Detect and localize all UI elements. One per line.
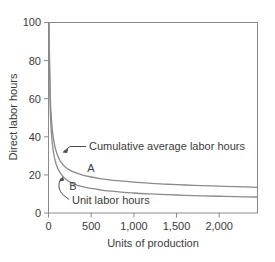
x-tick-label-500: 500 — [82, 220, 100, 232]
y-axis-title: Direct labor hours — [7, 73, 19, 160]
y-tick-label-60: 60 — [29, 93, 41, 105]
x-axis-tick-labels: 0 500 1,000 1,500 2,000 — [45, 220, 233, 232]
y-axis-tick-labels: 100 80 60 40 20 0 — [23, 16, 41, 219]
curve-a-tag-label: A — [87, 162, 95, 174]
x-tick-label-1500: 1,500 — [163, 220, 191, 232]
x-axis-title: Units of production — [107, 237, 199, 249]
learning-curve-chart-figure: 100 80 60 40 20 0 0 500 1,000 1,500 2,00… — [0, 0, 275, 262]
x-tick-label-2000: 2,000 — [205, 220, 233, 232]
y-tick-label-0: 0 — [35, 207, 41, 219]
x-tick-label-0: 0 — [45, 220, 51, 232]
plot-frame — [49, 23, 258, 214]
x-tick-label-1000: 1,000 — [120, 220, 148, 232]
y-tick-label-80: 80 — [29, 55, 41, 67]
plot-area-border — [49, 23, 258, 214]
x-axis-ticks — [49, 213, 220, 218]
cumulative-average-annotation-label: Cumulative average labor hours — [89, 140, 245, 152]
curve-b-tag-label: B — [69, 180, 76, 192]
y-axis-ticks — [44, 23, 49, 214]
y-tick-label-20: 20 — [29, 169, 41, 181]
y-tick-label-40: 40 — [29, 131, 41, 143]
chart-canvas: 100 80 60 40 20 0 0 500 1,000 1,500 2,00… — [0, 0, 275, 262]
y-tick-label-100: 100 — [23, 16, 41, 28]
unit-labor-annotation-label: Unit labor hours — [72, 194, 150, 206]
